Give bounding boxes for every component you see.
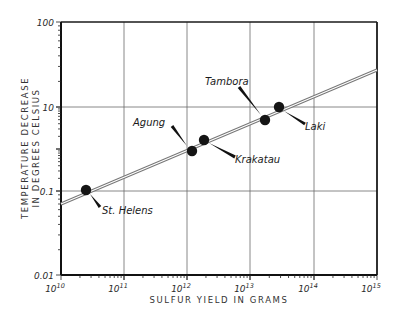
data-points: St. HelensAgungKrakatauTamboraLaki: [81, 76, 326, 216]
x-tick-label: 1013: [234, 282, 254, 294]
x-tick-label: 1014: [298, 282, 318, 294]
volcanic-sulfur-temperature-chart: St. HelensAgungKrakatauTamboraLaki 10101…: [0, 0, 404, 320]
tick-labels: 101010111012101310141015100100.10.01: [34, 18, 381, 295]
data-point-label: Krakatau: [235, 154, 280, 165]
trend-line: [61, 70, 377, 204]
leader-line: [284, 111, 306, 125]
axes: [56, 22, 377, 280]
y-tick-label: 0.1: [40, 187, 54, 197]
x-axis-title: SULFUR YIELD IN GRAMS: [150, 295, 289, 305]
x-tick-label: 1010: [45, 282, 65, 294]
leader-line: [171, 125, 187, 146]
trend-line-inner: [61, 70, 377, 204]
data-point-label: Tambora: [205, 76, 249, 87]
y-axis-title-line1: TEMPERATURE DECREASE: [20, 77, 30, 220]
data-point-label: St. Helens: [102, 205, 153, 216]
data-point-marker: [187, 146, 197, 156]
data-point-marker: [274, 102, 284, 112]
data-point-marker: [81, 185, 91, 195]
y-axis-title-line2: IN DEGREES CELSIUS: [31, 88, 41, 207]
x-tick-label: 1012: [171, 282, 191, 294]
leader-line: [238, 86, 261, 115]
data-point-marker: [199, 135, 209, 145]
y-tick-label: 0.01: [34, 271, 54, 281]
data-point-marker: [260, 115, 270, 125]
leader-line: [209, 143, 236, 158]
y-tick-label: 10: [43, 103, 55, 113]
y-tick-label: 100: [37, 18, 54, 28]
data-point-label: Agung: [132, 117, 165, 128]
x-tick-label: 1011: [108, 282, 128, 294]
leader-line: [90, 194, 101, 208]
data-point-label: Laki: [305, 121, 325, 132]
x-tick-label: 1015: [361, 282, 381, 294]
